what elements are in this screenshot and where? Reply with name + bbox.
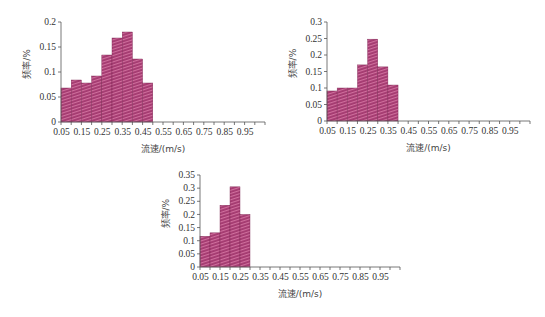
- histogram-bar: [240, 214, 250, 267]
- y-tick-label: 0.15: [178, 223, 195, 233]
- x-tick-label: 0.65: [312, 272, 329, 282]
- y-tick-label: 0.2: [310, 50, 322, 60]
- y-tick-label: 0.15: [39, 42, 56, 52]
- histogram-bar: [132, 59, 142, 122]
- y-axis-title: 频率/%: [287, 48, 298, 78]
- y-tick-label: 0.35: [178, 170, 195, 180]
- histogram-bar: [122, 32, 132, 122]
- x-axis-title: 流速/(m/s): [278, 288, 323, 299]
- histogram-bar: [368, 39, 378, 121]
- histogram-bar: [61, 88, 71, 122]
- histogram-bar: [357, 65, 367, 121]
- y-tick-label: 0.25: [178, 196, 195, 206]
- x-tick-label: 0.15: [74, 127, 91, 137]
- x-tick-label: 0.75: [461, 126, 478, 136]
- x-tick-label: 0.35: [252, 272, 269, 282]
- chart-svg: 00.050.10.150.20.050.150.250.350.450.550…: [16, 14, 275, 160]
- histogram-bar: [337, 88, 347, 121]
- histogram-chart-1: 00.050.10.150.20.050.150.250.350.450.550…: [16, 14, 275, 160]
- x-tick-label: 0.05: [192, 272, 209, 282]
- y-tick-label: 0: [190, 262, 195, 272]
- chart-svg: 00.050.10.150.20.250.30.350.050.150.250.…: [155, 167, 410, 305]
- x-tick-label: 0.95: [502, 126, 519, 136]
- x-tick-label: 0.15: [212, 272, 229, 282]
- x-axis-title: 流速/(m/s): [406, 142, 451, 153]
- histogram-bar: [112, 38, 122, 122]
- y-tick-label: 0.1: [183, 236, 195, 246]
- x-tick-label: 0.35: [114, 127, 131, 137]
- y-tick-label: 0.2: [44, 17, 56, 27]
- y-tick-label: 0.3: [310, 17, 322, 27]
- x-tick-label: 0.65: [441, 126, 458, 136]
- histogram-bar: [210, 233, 220, 267]
- x-tick-label: 0.85: [482, 126, 499, 136]
- x-tick-label: 0.05: [53, 127, 70, 137]
- y-tick-label: 0: [317, 116, 322, 126]
- bar-series: [327, 39, 398, 121]
- y-tick-label: 0.2: [183, 210, 195, 220]
- y-tick-label: 0: [51, 117, 56, 127]
- histogram-bar: [347, 88, 357, 121]
- histogram-bar: [102, 55, 112, 122]
- histogram-bar: [200, 236, 210, 267]
- bar-series: [200, 187, 250, 267]
- histogram-bar: [143, 83, 153, 122]
- histogram-bar: [388, 85, 398, 121]
- x-axis-title: 流速/(m/s): [141, 143, 186, 154]
- y-tick-label: 0.1: [310, 83, 322, 93]
- y-tick-label: 0.15: [305, 67, 322, 77]
- x-tick-label: 0.55: [421, 126, 438, 136]
- y-axis-title: 频率/%: [21, 49, 32, 79]
- histogram-bar: [92, 76, 102, 122]
- histogram-bar: [220, 205, 230, 267]
- x-tick-label: 0.25: [360, 126, 377, 136]
- chart-svg: 00.050.10.150.20.250.30.050.150.250.350.…: [282, 14, 540, 159]
- x-tick-label: 0.25: [94, 127, 111, 137]
- histogram-chart-2: 00.050.10.150.20.250.30.050.150.250.350.…: [282, 14, 540, 159]
- histogram-chart-3: 00.050.10.150.20.250.30.350.050.150.250.…: [155, 167, 410, 305]
- histogram-bar: [230, 187, 240, 267]
- x-tick-label: 0.45: [400, 126, 417, 136]
- y-tick-label: 0.05: [178, 249, 195, 259]
- x-tick-label: 0.75: [196, 127, 213, 137]
- x-tick-label: 0.45: [272, 272, 289, 282]
- histogram-bar: [81, 83, 91, 122]
- histogram-bar: [327, 91, 337, 121]
- x-tick-label: 0.45: [135, 127, 152, 137]
- x-tick-label: 0.05: [319, 126, 336, 136]
- y-tick-label: 0.05: [305, 100, 322, 110]
- x-tick-label: 0.75: [332, 272, 349, 282]
- x-tick-label: 0.85: [216, 127, 233, 137]
- x-tick-label: 0.95: [237, 127, 254, 137]
- x-tick-label: 0.65: [176, 127, 193, 137]
- x-tick-label: 0.25: [232, 272, 249, 282]
- y-axis-title: 频率/%: [160, 198, 171, 228]
- histogram-bar: [71, 80, 81, 122]
- y-tick-label: 0.1: [44, 67, 56, 77]
- y-tick-label: 0.3: [183, 183, 195, 193]
- y-tick-label: 0.25: [305, 34, 322, 44]
- x-tick-label: 0.55: [155, 127, 172, 137]
- x-tick-label: 0.95: [372, 272, 389, 282]
- x-tick-label: 0.35: [380, 126, 397, 136]
- histogram-bar: [378, 67, 388, 121]
- y-tick-label: 0.05: [39, 92, 56, 102]
- x-tick-label: 0.55: [292, 272, 309, 282]
- x-tick-label: 0.85: [352, 272, 369, 282]
- x-tick-label: 0.15: [339, 126, 356, 136]
- bar-series: [61, 32, 153, 122]
